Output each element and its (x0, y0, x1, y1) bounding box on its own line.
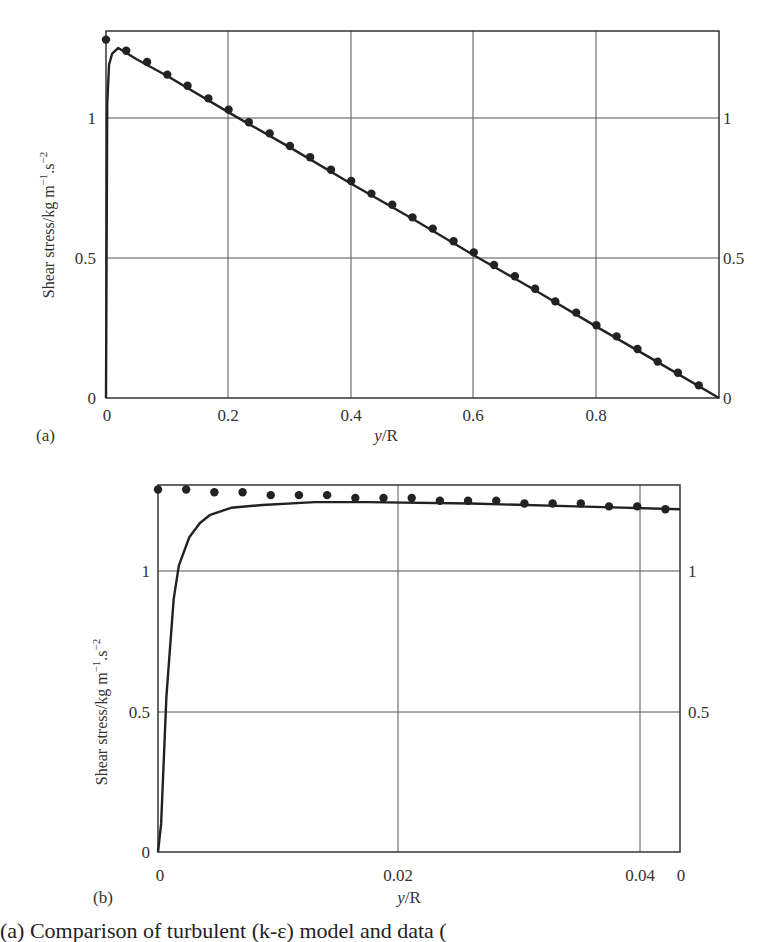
x-tick: 0.04 (625, 866, 655, 885)
data-point-marker (605, 502, 613, 510)
data-point-marker (654, 357, 662, 365)
chart-b-grid (158, 485, 680, 852)
data-point-marker (183, 82, 191, 90)
chart-a-series (102, 35, 719, 398)
chart-b-x-label: y/R (395, 888, 421, 907)
data-point-marker (633, 502, 641, 510)
data-point-marker (327, 166, 335, 174)
data-point-marker (265, 129, 273, 137)
chart-a-y-ticks-right: 0 0.5 1 (723, 109, 744, 408)
y-tick: 0.5 (129, 703, 150, 722)
chart-b: 0 0.5 1 0.5 1 0 0.02 0.04 0 y/R (b) Shea… (90, 485, 709, 907)
data-point-marker (347, 177, 355, 185)
panel-a-label: (a) (36, 426, 55, 445)
x-tick: 0.6 (462, 406, 483, 425)
y-tick: 1 (723, 109, 732, 128)
figure: 0 0.5 1 0 0.5 1 0 0.2 0.4 0.6 0.8 y/R (a… (0, 0, 770, 942)
y-tick: 0.5 (688, 703, 709, 722)
data-point-marker (367, 189, 375, 197)
data-point-marker (470, 248, 478, 256)
y-tick: 0.5 (723, 249, 744, 268)
data-point-marker (295, 491, 303, 499)
data-point-marker (572, 308, 580, 316)
data-point-marker (154, 485, 162, 493)
chart-b-y-ticks-right: 0.5 1 (688, 562, 709, 722)
y-tick: 1 (142, 562, 151, 581)
data-point-marker (204, 94, 212, 102)
data-point-marker (490, 261, 498, 269)
data-point-marker (407, 494, 415, 502)
data-point-marker (633, 345, 641, 353)
x-tick: 0 (103, 406, 112, 425)
series-line (106, 48, 719, 398)
data-point-marker (245, 118, 253, 126)
data-point-marker (661, 505, 669, 513)
data-point-marker (224, 105, 232, 113)
x-tick: 0.8 (585, 406, 606, 425)
data-point-marker (388, 201, 396, 209)
data-point-marker (163, 70, 171, 78)
y-tick: 0.5 (75, 249, 96, 268)
figure-caption: (a) Comparison of turbulent (k-ε) model … (0, 918, 770, 942)
data-point-marker (323, 491, 331, 499)
y-tick: 1 (88, 109, 97, 128)
y-tick: 0 (88, 389, 97, 408)
x-tick: 0.4 (340, 406, 362, 425)
data-point-marker (143, 58, 151, 66)
data-point-marker (695, 381, 703, 389)
chart-a-x-label: y/R (372, 426, 398, 445)
chart-b-x-ticks: 0 0.02 0.04 0 (156, 866, 686, 885)
data-point-marker (464, 497, 472, 505)
data-point-marker (351, 494, 359, 502)
data-point-marker (379, 494, 387, 502)
y-tick: 0 (142, 843, 151, 862)
x-tick: 0 (677, 866, 686, 885)
data-point-marker (531, 285, 539, 293)
data-point-marker (306, 153, 314, 161)
x-tick: 0.2 (217, 406, 238, 425)
data-point-marker (511, 272, 519, 280)
chart-a-y-ticks-left: 0 0.5 1 (75, 109, 96, 408)
data-point-marker (577, 499, 585, 507)
chart-b-y-label: Shear stress/kg m−1.s−2 (90, 639, 111, 786)
data-point-marker (408, 213, 416, 221)
x-tick: 0.02 (383, 866, 413, 885)
data-point-marker (436, 497, 444, 505)
data-point-marker (102, 35, 110, 43)
data-point-marker (182, 485, 190, 493)
data-point-marker (551, 297, 559, 305)
data-point-marker (238, 488, 246, 496)
series-line (158, 502, 680, 852)
y-tick: 1 (688, 562, 697, 581)
chart-b-y-ticks-left: 0 0.5 1 (129, 562, 150, 862)
chart-b-series (154, 485, 680, 852)
data-point-marker (122, 47, 130, 55)
data-point-marker (520, 499, 528, 507)
x-tick: 0 (156, 866, 165, 885)
data-point-marker (429, 224, 437, 232)
panel-b-label: (b) (93, 888, 113, 907)
data-point-marker (592, 321, 600, 329)
data-point-marker (267, 491, 275, 499)
data-point-marker (449, 237, 457, 245)
data-point-marker (492, 497, 500, 505)
chart-a-y-label: Shear stress/kg m−1.s−2 (37, 152, 58, 299)
chart-b-frame (158, 485, 680, 852)
y-tick: 0 (723, 389, 732, 408)
chart-a-x-ticks: 0 0.2 0.4 0.6 0.8 (103, 406, 607, 425)
data-point-marker (674, 369, 682, 377)
data-point-marker (612, 332, 620, 340)
data-point-marker (548, 499, 556, 507)
data-point-marker (286, 142, 294, 150)
chart-a: 0 0.5 1 0 0.5 1 0 0.2 0.4 0.6 0.8 y/R (a… (36, 31, 744, 445)
data-point-marker (210, 488, 218, 496)
